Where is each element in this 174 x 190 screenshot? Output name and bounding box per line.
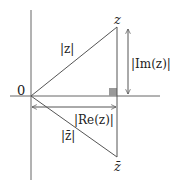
right-angle-marker: [109, 88, 117, 96]
segment-abs-z: [31, 27, 117, 96]
z-bar-label: z̄: [113, 159, 121, 174]
abs-im-label: |Im(z)|: [131, 57, 171, 71]
diagram-svg: 0 z z̄ |z| |z̄| |Im(z)| |Re(z)|: [0, 0, 174, 190]
abs-re-label: |Re(z)|: [74, 113, 114, 127]
complex-plane-diagram: 0 z z̄ |z| |z̄| |Im(z)| |Re(z)|: [0, 0, 174, 190]
abs-z-label: |z|: [60, 42, 74, 56]
abs-z-bar-label: |z̄|: [61, 129, 75, 143]
origin-label: 0: [17, 83, 25, 98]
z-label: z: [113, 12, 121, 27]
